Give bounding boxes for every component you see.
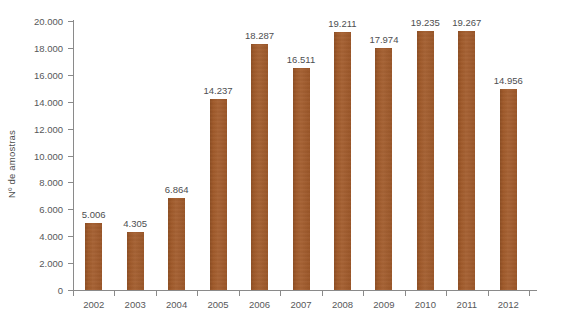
bar [334,32,351,290]
y-axis-tick-label: 14.000 [3,96,63,107]
x-axis-line [73,290,537,291]
x-axis-tick [488,291,489,296]
plot-area: 5.0064.3056.86414.23718.28716.51119.2111… [73,21,529,290]
x-axis-tick-label: 2008 [332,299,353,310]
bar-value-label: 5.006 [82,209,106,220]
x-axis-tick-label: 2010 [415,299,436,310]
x-axis-tick [446,291,447,296]
y-axis-tick-label: 20.000 [3,16,63,27]
y-axis-tick-label: 2.000 [3,258,63,269]
x-axis-tick [529,291,530,296]
x-axis-tick [156,291,157,296]
bar [375,48,392,290]
bar [417,31,434,290]
x-axis-tick-label: 2004 [166,299,187,310]
bar [500,89,517,290]
bar-value-label: 17.974 [369,34,398,45]
x-axis-tick [114,291,115,296]
x-axis-tick [197,291,198,296]
bar-value-label: 19.211 [328,18,356,29]
bar [251,44,268,290]
x-axis-tick-label: 2012 [498,299,519,310]
x-axis-tick-label: 2009 [373,299,394,310]
bar-value-label: 19.235 [411,17,440,28]
x-axis-tick [239,291,240,296]
x-axis-tick [363,291,364,296]
y-axis-tick-label: 16.000 [3,69,63,80]
y-axis-tick-label: 6.000 [3,204,63,215]
bar-value-label: 14.237 [204,85,233,96]
bar-value-label: 19.267 [452,17,481,28]
bar-chart: Nº de amostras 02.0004.0006.0008.00010.0… [0,0,566,328]
x-axis-tick [280,291,281,296]
x-axis-tick-label: 2005 [208,299,229,310]
bar [168,198,185,290]
bar [293,68,310,290]
x-axis-tick-label: 2002 [83,299,104,310]
bar [458,31,475,290]
bar-value-label: 16.511 [287,54,315,65]
bar [210,99,227,290]
y-axis-tick-label: 4.000 [3,231,63,242]
bar [85,223,102,290]
x-axis-tick-label: 2007 [290,299,311,310]
bar-value-label: 14.956 [494,75,523,86]
y-axis-tick-label: 18.000 [3,42,63,53]
bar-value-label: 6.864 [165,184,189,195]
bar [127,232,144,290]
x-axis-tick-label: 2011 [457,299,477,310]
bar-value-label: 18.287 [245,30,274,41]
x-axis-tick [405,291,406,296]
y-axis-tick-label: 10.000 [3,150,63,161]
y-axis-tick-label: 12.000 [3,123,63,134]
y-axis-tick-label: 0 [3,285,63,296]
x-axis-tick [322,291,323,296]
x-axis-tick-label: 2006 [249,299,270,310]
bar-value-label: 4.305 [123,218,147,229]
y-axis-tick-label: 8.000 [3,177,63,188]
x-axis-tick-label: 2003 [125,299,146,310]
x-axis-tick [73,291,74,296]
